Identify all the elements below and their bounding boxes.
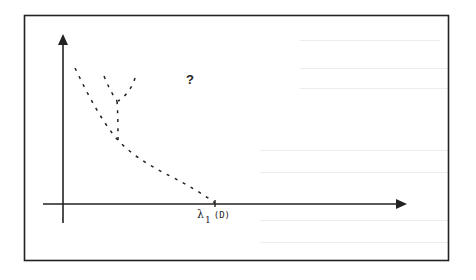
dashed-curve-main <box>75 68 215 203</box>
x-axis-label: λ1(D) <box>197 208 230 221</box>
question-mark-label: ? <box>186 72 194 87</box>
figure-frame <box>25 16 449 261</box>
y-axis-arrow-icon <box>58 34 68 223</box>
lambda-argument: (D) <box>214 210 230 220</box>
dashed-curve-branch <box>104 76 135 140</box>
lambda-symbol: λ <box>197 208 204 221</box>
lambda-subscript: 1 <box>205 215 211 225</box>
diagram-canvas <box>0 0 476 280</box>
